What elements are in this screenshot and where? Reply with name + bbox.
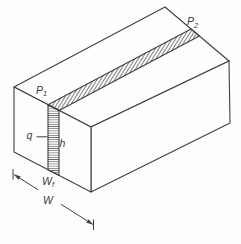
w-dim-left-arrowhead xyxy=(14,175,21,180)
figure-canvas: P1 P2 q h Wf W xyxy=(0,0,241,244)
label-wf: Wf xyxy=(42,175,55,190)
label-h: h xyxy=(60,137,66,149)
label-q: q xyxy=(27,129,33,141)
label-w: W xyxy=(43,194,54,206)
strip-end-face xyxy=(48,105,59,176)
w-dim-right-arrowhead xyxy=(86,219,93,224)
block-faces xyxy=(14,7,230,192)
block-diagram-svg: P1 P2 q h Wf W xyxy=(0,0,241,244)
